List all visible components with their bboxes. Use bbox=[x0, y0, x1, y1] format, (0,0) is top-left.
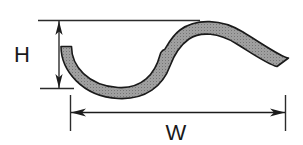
h-dimension-label: H bbox=[14, 42, 30, 67]
dimension-diagram: H W bbox=[0, 0, 303, 145]
diagram-canvas: H W bbox=[0, 0, 303, 145]
wave-strip-shape bbox=[61, 22, 289, 99]
w-dimension-line bbox=[71, 109, 285, 117]
w-dimension-label: W bbox=[166, 120, 187, 145]
